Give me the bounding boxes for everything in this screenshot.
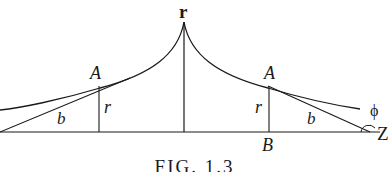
apex-label-r: r: [179, 2, 187, 21]
right-tangent-label-b: b: [307, 110, 316, 127]
foot-label-b: B: [262, 136, 273, 154]
pseudosphere-profile-diagram: r A r b A r b B Z ϕ FIG. 1.3: [0, 0, 389, 172]
figure-caption: FIG. 1.3: [0, 156, 389, 172]
right-height-label-r: r: [255, 98, 262, 116]
endpoint-label-z: Z: [377, 124, 389, 143]
diagram-canvas: [0, 0, 389, 172]
right-point-label-a: A: [264, 64, 275, 82]
left-point-label-a: A: [90, 64, 101, 82]
left-tangent-label-b: b: [57, 110, 66, 127]
right-tangent-b: [268, 86, 370, 132]
angle-label-phi: ϕ: [370, 103, 378, 119]
left-height-label-r: r: [104, 98, 111, 116]
